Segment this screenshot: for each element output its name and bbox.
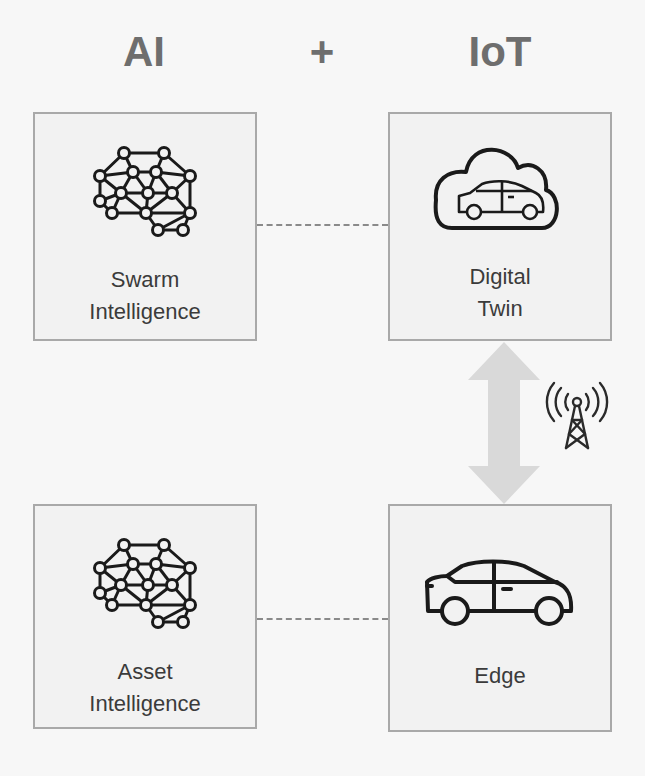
- edge-label: Edge: [390, 660, 610, 692]
- asset-intelligence-label-2: Intelligence: [35, 688, 255, 720]
- swarm-to-digital-twin-connector: [257, 224, 388, 226]
- car-icon: [388, 504, 612, 732]
- digital-twin-label-2: Twin: [390, 293, 610, 325]
- plus-sign: +: [302, 30, 342, 74]
- digital-twin-box: Digital Twin: [388, 112, 612, 341]
- radio-tower-icon: [546, 382, 610, 452]
- bidirectional-arrow-icon: [464, 342, 544, 504]
- swarm-intelligence-label-1: Swarm: [35, 264, 255, 296]
- swarm-intelligence-label-2: Intelligence: [35, 296, 255, 328]
- swarm-intelligence-box: Swarm Intelligence: [33, 112, 257, 341]
- iot-title: IoT: [450, 30, 550, 74]
- digital-twin-label-1: Digital: [390, 261, 610, 293]
- asset-intelligence-label-1: Asset: [35, 656, 255, 688]
- edge-box: Edge: [388, 504, 612, 732]
- asset-to-edge-connector: [257, 618, 388, 620]
- asset-intelligence-box: Asset Intelligence: [33, 504, 257, 729]
- ai-title: AI: [104, 30, 184, 74]
